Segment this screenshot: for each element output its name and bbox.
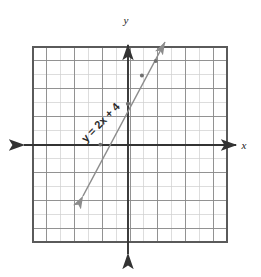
y-axis-label: y	[123, 14, 129, 26]
point-marker	[126, 102, 130, 106]
point-marker	[98, 143, 102, 147]
point-marker	[154, 59, 158, 63]
x-axis-label: x	[241, 139, 247, 151]
graph-figure: y = 2x + 4 x y	[0, 0, 261, 277]
point-marker	[140, 74, 144, 78]
coordinate-plane: y = 2x + 4 x y	[0, 0, 261, 277]
